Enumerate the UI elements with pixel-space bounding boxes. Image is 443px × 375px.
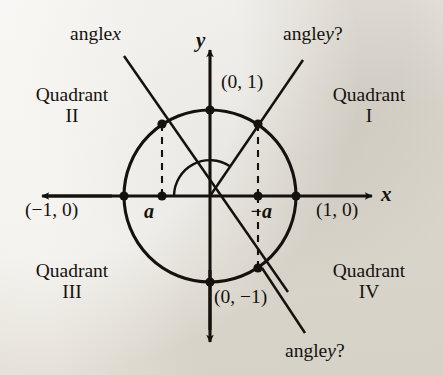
unit-circle-figure: Quadrant II Quadrant I Quadrant III Quad… — [0, 0, 443, 375]
point-top — [205, 105, 214, 114]
angle-x-prefix: angle — [70, 23, 112, 44]
quadrant-ii-numeral: II — [8, 106, 136, 127]
coordinate-label-right: (1, 0) — [316, 200, 358, 221]
unit-circle-diagram-graphics — [0, 0, 443, 375]
coordinate-label-top: (0, 1) — [221, 72, 263, 93]
point-intersection-upper-left — [157, 119, 166, 128]
quadrant-iv-numeral: IV — [305, 282, 433, 303]
angle-y-bottom-suffix: ? — [336, 340, 345, 361]
quadrant-label-ii: Quadrant II — [8, 85, 136, 126]
quadrant-iii-numeral: III — [8, 282, 136, 303]
coordinate-label-left: (−1, 0) — [25, 200, 78, 221]
coordinate-label-bottom: (0, −1) — [214, 287, 267, 308]
quadrant-iv-name: Quadrant — [333, 260, 406, 281]
parameter-label-neg-a: −a — [250, 201, 272, 222]
parameter-label-a: a — [144, 201, 154, 222]
point-left — [119, 191, 128, 200]
point-a — [157, 191, 166, 200]
angle-y-top-variable: y — [325, 23, 334, 44]
angle-x-variable: x — [112, 23, 121, 44]
angle-y-bottom-variable: y — [327, 340, 336, 361]
angle-y-top-suffix: ? — [334, 23, 343, 44]
quadrant-i-name: Quadrant — [333, 84, 406, 105]
point-right — [291, 191, 300, 200]
angle-y-top-prefix: angle — [283, 23, 325, 44]
quadrant-ii-name: Quadrant — [36, 84, 109, 105]
point-intersection-upper-right — [253, 119, 262, 128]
quadrant-label-iv: Quadrant IV — [305, 261, 433, 302]
quadrant-i-numeral: I — [305, 106, 433, 127]
point-intersection-lower-right — [253, 263, 262, 272]
x-axis-label: x — [381, 183, 392, 205]
quadrant-iii-name: Quadrant — [36, 260, 109, 281]
ray-label-angle-y-top: angley? — [283, 24, 343, 45]
ray-label-angle-y-bottom: angley? — [285, 341, 345, 362]
quadrant-label-iii: Quadrant III — [8, 261, 136, 302]
quadrant-label-i: Quadrant I — [305, 85, 433, 126]
y-axis-label: y — [196, 29, 205, 51]
ray-label-angle-x: anglex — [70, 24, 121, 45]
angle-y-bottom-prefix: angle — [285, 340, 327, 361]
ray-angle-y-extension — [262, 268, 305, 333]
